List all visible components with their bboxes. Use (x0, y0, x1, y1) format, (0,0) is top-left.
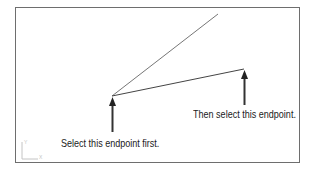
svg-text:Y: Y (24, 139, 28, 145)
label-first-endpoint: Select this endpoint first. (61, 137, 159, 149)
arrow-first-endpoint-icon (109, 97, 116, 132)
arrow-second-endpoint-icon (241, 70, 248, 105)
label-second-endpoint: Then select this endpoint. (193, 108, 296, 120)
lower-line[interactable] (112, 69, 244, 96)
upper-line[interactable] (112, 14, 218, 96)
svg-text:X: X (39, 154, 43, 160)
ucs-icon: Y X (22, 139, 43, 160)
